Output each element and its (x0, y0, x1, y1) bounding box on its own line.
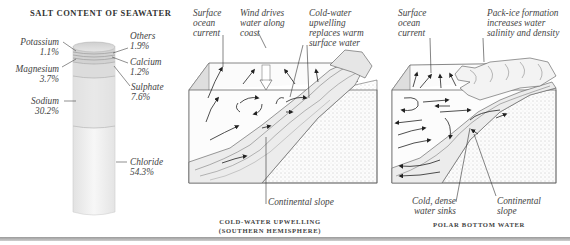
label-continental-slope-2: Continental slope (497, 196, 541, 216)
label-pack-ice: Pack-ice formation increases water salin… (487, 8, 559, 38)
caption-polar: POLAR BOTTOM WATER (424, 220, 534, 229)
label-surface-current-2: Surface ocean current (398, 8, 426, 38)
bottom-divider (0, 237, 570, 241)
label-cold-dense-water: Cold, dense water sinks (412, 196, 456, 216)
polar-bottom-water-diagram (0, 0, 570, 245)
